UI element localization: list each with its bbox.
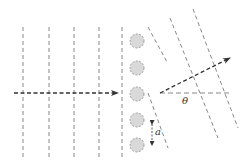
scatterer-circle: [130, 34, 144, 48]
wavefront-line: [148, 27, 167, 62]
diffracted-wavefronts: [148, 9, 238, 148]
wavefront-line: [193, 9, 238, 128]
wavefront-line: [148, 93, 168, 148]
angle-label: θ: [182, 96, 188, 106]
wavefront-line: [170, 18, 218, 138]
scatterer-circle: [130, 61, 144, 75]
scatterer-circle: [130, 138, 144, 152]
scatterer-circle: [130, 113, 144, 127]
scatterer-array: [130, 34, 144, 152]
diffracted-arrow: [160, 58, 230, 93]
spacing-label: a: [155, 127, 161, 137]
scatterer-circle: [130, 87, 144, 101]
diagram-canvas: [0, 0, 250, 165]
